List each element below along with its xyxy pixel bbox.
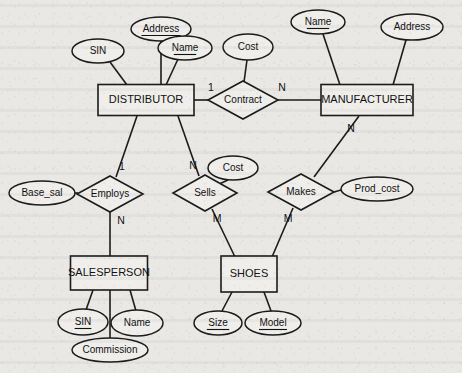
- cardinality-label: N: [189, 159, 197, 171]
- attribute-label: Model: [259, 317, 286, 328]
- relationship-makes[interactable]: Makes: [268, 174, 334, 210]
- attribute-label: Address: [143, 23, 180, 34]
- cardinality-label: 1: [119, 160, 125, 172]
- attribute-sales-commission[interactable]: Commission: [72, 338, 148, 362]
- entity-manufacturer[interactable]: MANUFACTURER: [321, 85, 413, 116]
- attribute-shoes-model[interactable]: Model: [245, 311, 301, 335]
- relationship-label: Employs: [91, 188, 129, 199]
- connector-line: [244, 60, 247, 82]
- attribute-contract-cost[interactable]: Cost: [223, 34, 273, 60]
- entity-salesperson[interactable]: SALESPERSON: [68, 256, 150, 290]
- connector-line: [110, 62, 127, 85]
- entity-label: SALESPERSON: [68, 266, 150, 278]
- attribute-manu-name[interactable]: Name: [291, 10, 345, 34]
- cardinality-label: N: [117, 214, 125, 226]
- cardinality-label: M: [284, 212, 293, 224]
- er-diagram-canvas: DISTRIBUTORMANUFACTURERSALESPERSONSHOESC…: [0, 0, 462, 373]
- attribute-sells-cost[interactable]: Cost: [208, 156, 258, 180]
- connector-line: [323, 34, 340, 85]
- relationship-label: Contract: [224, 94, 262, 105]
- attribute-label: Commission: [82, 344, 137, 355]
- connector-line: [86, 290, 93, 310]
- attribute-label: Name: [124, 317, 151, 328]
- cardinality-label: 1: [208, 81, 214, 93]
- relationship-label: Makes: [286, 186, 315, 197]
- connector-line: [222, 292, 232, 311]
- entity-label: DISTRIBUTOR: [109, 93, 183, 105]
- attribute-label: SIN: [90, 45, 107, 56]
- relationship-label: Sells: [194, 187, 216, 198]
- attribute-label: SIN: [75, 316, 92, 327]
- relationship-employs[interactable]: Employs: [77, 176, 143, 212]
- connector-line: [166, 59, 178, 85]
- attribute-label: Cost: [223, 162, 244, 173]
- attribute-label: Name: [305, 16, 332, 27]
- attribute-label: Address: [394, 21, 431, 32]
- entity-distributor[interactable]: DISTRIBUTOR: [98, 85, 194, 116]
- attribute-dist-name[interactable]: Name: [158, 36, 212, 60]
- cardinality-label: N: [278, 81, 286, 93]
- attribute-label: Cost: [238, 41, 259, 52]
- cardinality-label: N: [347, 122, 355, 134]
- attribute-sales-sin[interactable]: SIN: [58, 309, 108, 335]
- attribute-makes-prodcost[interactable]: Prod_cost: [341, 177, 413, 201]
- cardinality-label: M: [213, 212, 222, 224]
- attribute-sales-name[interactable]: Name: [111, 310, 163, 336]
- attribute-label: Base_sal: [21, 187, 62, 198]
- entity-shoes[interactable]: SHOES: [221, 256, 277, 292]
- attribute-shoes-size[interactable]: Size: [194, 311, 242, 335]
- connector-line: [393, 40, 406, 85]
- attribute-employs-basesal[interactable]: Base_sal: [9, 181, 75, 205]
- entity-label: MANUFACTURER: [321, 93, 413, 105]
- node-layer: DISTRIBUTORMANUFACTURERSALESPERSONSHOESC…: [9, 10, 443, 362]
- attribute-manu-address[interactable]: Address: [381, 14, 443, 40]
- attribute-label: Prod_cost: [354, 183, 399, 194]
- attribute-dist-sin[interactable]: SIN: [72, 39, 124, 63]
- attribute-label: Size: [208, 317, 228, 328]
- attribute-label: Name: [172, 42, 199, 53]
- entity-label: SHOES: [230, 267, 269, 279]
- relationship-contract[interactable]: Contract: [208, 81, 278, 119]
- connector-line: [130, 290, 136, 311]
- connector-line: [264, 292, 271, 311]
